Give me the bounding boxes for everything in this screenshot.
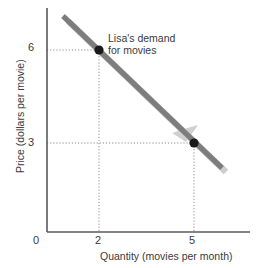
x-axis-tick-label-2: 2 xyxy=(95,234,101,247)
data-point-b xyxy=(189,138,198,147)
annotation-line-2: for movies xyxy=(108,44,175,56)
data-point-a xyxy=(94,45,103,54)
x-axis-title: Quantity (movies per month) xyxy=(100,250,232,262)
x-axis-tick-label-0: 0 xyxy=(33,234,39,247)
demand-curve-annotation: Lisa's demand for movies xyxy=(108,32,175,57)
annotation-line-1: Lisa's demand xyxy=(108,32,175,44)
y-axis-tick-label-3: 3 xyxy=(28,136,34,149)
y-axis-tick-label-6: 6 xyxy=(28,41,34,54)
y-axis-title: Price (dollars per movie) xyxy=(14,51,26,181)
demand-curve-chart: Price (dollars per movie) Quantity (movi… xyxy=(0,0,261,268)
x-axis-tick-label-5: 5 xyxy=(189,234,195,247)
